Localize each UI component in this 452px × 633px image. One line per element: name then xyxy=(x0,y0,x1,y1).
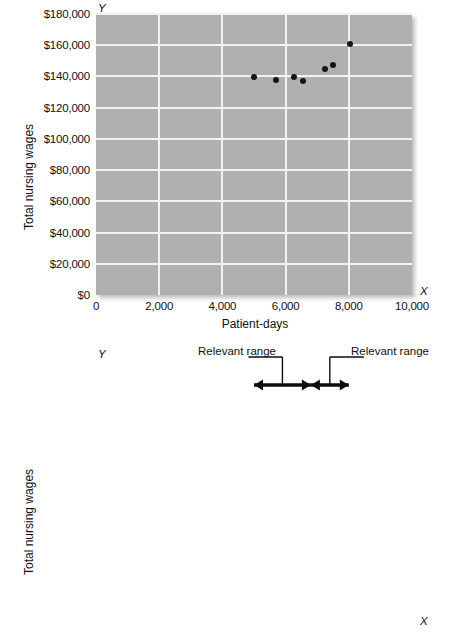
y-axis-letter-bottom: Y xyxy=(98,348,106,360)
y-axis-tick-label: $60,000 xyxy=(0,195,90,207)
gridline-horizontal xyxy=(96,107,412,109)
arrow-head-left-0 xyxy=(254,380,263,391)
gridline-horizontal xyxy=(96,138,412,140)
x-axis-letter-bottom: X xyxy=(420,615,428,627)
gridline-horizontal xyxy=(96,13,412,15)
y-axis-tick-label: $120,000 xyxy=(0,102,90,114)
x-axis-title-top: Patient-days xyxy=(170,317,340,331)
y-axis-letter-top: Y xyxy=(98,2,106,14)
arrow-head-left-1 xyxy=(311,380,320,391)
gridline-vertical xyxy=(221,14,223,295)
gridline-vertical xyxy=(285,14,287,295)
gridline-horizontal xyxy=(96,200,412,202)
data-point xyxy=(322,66,328,72)
y-axis-tick-label: $80,000 xyxy=(0,164,90,176)
data-point xyxy=(300,78,306,84)
scatter-plot-area xyxy=(96,14,412,295)
y-axis-tick-label: $140,000 xyxy=(0,70,90,82)
gridline-horizontal xyxy=(96,44,412,46)
gridline-vertical xyxy=(158,14,160,295)
x-axis-tick-label: 2,000 xyxy=(124,300,194,312)
relevant-range-arrows xyxy=(0,330,452,633)
gridline-horizontal xyxy=(96,263,412,265)
data-point xyxy=(347,41,353,47)
y-axis-tick-label: $180,000 xyxy=(0,8,90,20)
y-axis-title-bottom: Total nursing wages xyxy=(22,469,36,575)
step-cost-chart-figure: Relevant range Relevant range $0$20,000$… xyxy=(0,330,452,633)
gridline-vertical xyxy=(348,14,350,295)
x-axis-tick-label: 8,000 xyxy=(314,300,384,312)
x-axis-tick-label: 6,000 xyxy=(251,300,321,312)
data-point xyxy=(251,74,257,80)
data-point xyxy=(291,74,297,80)
x-axis-tick-label: 4,000 xyxy=(187,300,257,312)
arrow-head-right-0 xyxy=(302,380,311,391)
y-axis-title-top: Total nursing wages xyxy=(22,124,36,230)
gridline-horizontal xyxy=(96,169,412,171)
relevant-range-label-right: Relevant range xyxy=(351,345,429,357)
x-axis-tick-label: 0 xyxy=(61,300,131,312)
x-axis-letter-top: X xyxy=(420,285,428,297)
y-axis-tick-label: $100,000 xyxy=(0,133,90,145)
y-axis-tick-label: $20,000 xyxy=(0,258,90,270)
data-point xyxy=(273,77,279,83)
arrow-head-right-1 xyxy=(340,380,349,391)
y-axis-tick-label: $160,000 xyxy=(0,39,90,51)
y-axis-tick-label: $40,000 xyxy=(0,227,90,239)
x-axis-tick-label: 10,000 xyxy=(377,300,447,312)
gridline-horizontal xyxy=(96,232,412,234)
scatter-chart-figure: $0$20,000$40,000$60,000$80,000$100,000$1… xyxy=(0,0,452,330)
relevant-range-label-left: Relevant range xyxy=(198,345,276,357)
data-point xyxy=(330,62,336,68)
